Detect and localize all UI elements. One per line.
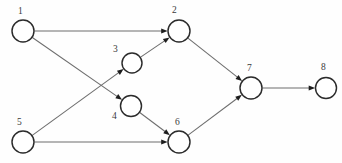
node-3[interactable] xyxy=(122,53,142,73)
node-label-6: 6 xyxy=(175,118,180,128)
node-8[interactable] xyxy=(316,78,337,99)
arrowhead-6-to-7-icon xyxy=(235,95,242,101)
arrowhead-3-to-2-icon xyxy=(163,37,170,43)
edge-6-to-7 xyxy=(188,98,238,135)
node-4[interactable] xyxy=(121,96,142,117)
edge-5-to-3 xyxy=(32,72,119,135)
edge-4-to-6 xyxy=(140,113,166,132)
node-label-7: 7 xyxy=(247,64,252,74)
arrowhead-1-to-2-icon xyxy=(161,29,167,34)
arrowhead-5-to-3-icon xyxy=(117,69,124,75)
node-label-2: 2 xyxy=(172,6,177,16)
node-label-3: 3 xyxy=(113,45,118,55)
arrowhead-1-to-4-icon xyxy=(115,94,122,100)
node-6[interactable] xyxy=(168,131,190,153)
graph-canvas: 12345678 xyxy=(0,0,342,163)
edge-2-to-7 xyxy=(188,38,238,78)
node-2[interactable] xyxy=(168,20,190,42)
graph-svg xyxy=(0,0,342,163)
arrowhead-7-to-8-icon xyxy=(309,86,315,91)
arrowhead-5-to-6-icon xyxy=(161,140,167,145)
node-label-5: 5 xyxy=(17,118,22,128)
node-5[interactable] xyxy=(12,131,34,153)
node-label-8: 8 xyxy=(321,63,326,73)
nodes-group xyxy=(12,20,337,153)
node-label-1: 1 xyxy=(18,7,23,17)
arrowhead-4-to-6-icon xyxy=(163,129,170,135)
edges-group xyxy=(32,29,315,145)
edge-3-to-2 xyxy=(141,40,166,57)
edge-1-to-4 xyxy=(32,38,117,97)
node-label-4: 4 xyxy=(112,112,117,122)
node-1[interactable] xyxy=(12,20,34,42)
node-7[interactable] xyxy=(240,77,262,99)
